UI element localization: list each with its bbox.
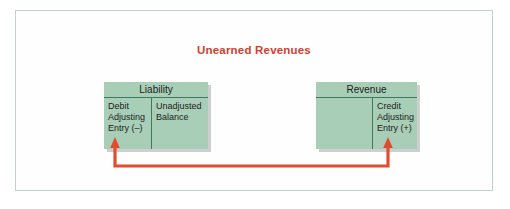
t-account-revenue-title: Revenue (316, 82, 417, 98)
figure-title: Unearned Revenues (16, 44, 492, 56)
t-account-liability-credit-cell: Unadjusted Balance (152, 98, 208, 149)
t-account-revenue: Revenue Credit Adjusting Entry (+) (316, 82, 417, 149)
t-account-revenue-body: Credit Adjusting Entry (+) (316, 98, 417, 149)
t-account-revenue-debit-cell (316, 98, 373, 149)
t-account-revenue-credit-cell: Credit Adjusting Entry (+) (373, 98, 417, 149)
t-account-liability-body: Debit Adjusting Entry (–) Unadjusted Bal… (104, 98, 208, 149)
t-account-liability: Liability Debit Adjusting Entry (–) Unad… (104, 82, 208, 149)
t-account-liability-title: Liability (104, 82, 208, 98)
figure-frame: Unearned Revenues Liability Debit Adjust… (15, 10, 493, 191)
t-account-liability-debit-cell: Debit Adjusting Entry (–) (104, 98, 152, 149)
